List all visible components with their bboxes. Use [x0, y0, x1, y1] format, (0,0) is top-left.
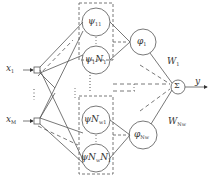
- input-node-xM: [34, 118, 40, 124]
- wavelon-label-psiNwN1: ψNwN1: [81, 153, 111, 163]
- product-label-phiNw: φNw: [134, 130, 149, 140]
- input-label-xM: xM: [6, 115, 16, 125]
- weight-label-wNw: WNw: [168, 117, 186, 127]
- input-node-x1: [34, 67, 40, 73]
- wavelon-label-psiNw1: ψNw1: [84, 115, 106, 125]
- wavelon-label-psi1N1: ψ1N1: [85, 55, 106, 65]
- product-label-phi1: φ1: [137, 37, 147, 47]
- wavelon-group-box-1: [79, 3, 113, 60]
- output-label-y: y: [195, 77, 200, 86]
- weight-label-w1: W1: [167, 57, 179, 67]
- wavelon-label-psi11: ψ11: [88, 17, 101, 27]
- sum-label: Σ: [174, 82, 180, 90]
- wavelet-network-diagram: x1 xM ψ11 ψ1N1 ψNw1 ψNwN1 φ1 φNw W1 WNw …: [0, 0, 216, 178]
- input-label-x1: x1: [6, 64, 14, 74]
